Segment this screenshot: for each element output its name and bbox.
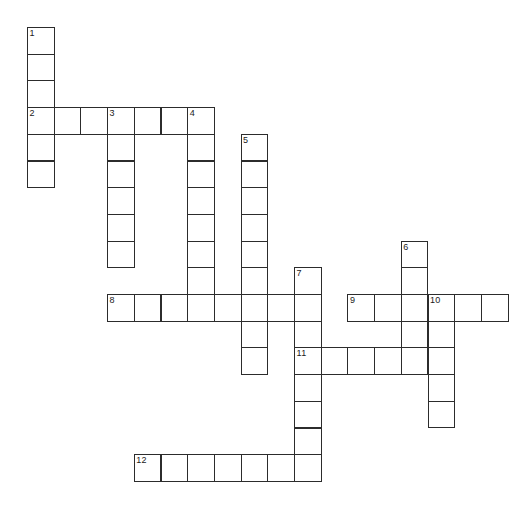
crossword-cell[interactable]: 7: [294, 267, 322, 295]
crossword-cell[interactable]: [187, 161, 215, 189]
crossword-cell[interactable]: [107, 161, 135, 189]
cell-number-11: 11: [297, 348, 307, 358]
crossword-cell[interactable]: [241, 241, 269, 269]
crossword-cell[interactable]: [241, 187, 269, 215]
crossword-cell[interactable]: [374, 294, 402, 322]
crossword-cell[interactable]: 3: [107, 107, 135, 135]
cell-number-4: 4: [190, 108, 195, 118]
footer-note: [258, 492, 516, 504]
crossword-cell[interactable]: [214, 294, 242, 322]
crossword-cell[interactable]: [454, 294, 482, 322]
crossword-cell[interactable]: [428, 401, 456, 429]
crossword-cell[interactable]: [294, 294, 322, 322]
cell-number-10: 10: [430, 295, 441, 305]
crossword-puzzle: 123456711891012: [0, 0, 520, 523]
crossword-cell[interactable]: 4: [187, 107, 215, 135]
crossword-cell[interactable]: 8: [107, 294, 135, 322]
crossword-cell[interactable]: [241, 294, 269, 322]
crossword-cell[interactable]: [294, 428, 322, 456]
crossword-cell[interactable]: [428, 347, 456, 375]
crossword-cell[interactable]: [27, 80, 55, 108]
cell-number-3: 3: [110, 108, 115, 118]
crossword-cell[interactable]: [241, 347, 269, 375]
crossword-cell[interactable]: [294, 401, 322, 429]
crossword-cell[interactable]: 9: [347, 294, 375, 322]
crossword-cell[interactable]: 2: [27, 107, 55, 135]
cell-number-9: 9: [350, 295, 355, 305]
crossword-cell[interactable]: 1: [27, 27, 55, 55]
cell-number-12: 12: [136, 455, 147, 465]
crossword-cell[interactable]: [481, 294, 509, 322]
crossword-cell[interactable]: [267, 294, 295, 322]
crossword-cell[interactable]: [321, 347, 349, 375]
crossword-cell[interactable]: [294, 321, 322, 349]
crossword-cell[interactable]: 11: [294, 347, 322, 375]
crossword-cell[interactable]: [107, 187, 135, 215]
crossword-cell[interactable]: [267, 454, 295, 482]
crossword-cell[interactable]: [187, 214, 215, 242]
crossword-cell[interactable]: [294, 454, 322, 482]
crossword-cell[interactable]: [187, 267, 215, 295]
crossword-cell[interactable]: [27, 54, 55, 82]
crossword-cell[interactable]: [401, 294, 429, 322]
crossword-cell[interactable]: [374, 347, 402, 375]
crossword-cell[interactable]: 6: [401, 241, 429, 269]
cell-number-7: 7: [297, 268, 302, 278]
crossword-cell[interactable]: [241, 454, 269, 482]
crossword-cell[interactable]: 10: [428, 294, 456, 322]
cell-number-2: 2: [30, 108, 35, 118]
crossword-cell[interactable]: [107, 134, 135, 162]
crossword-cell[interactable]: [428, 374, 456, 402]
crossword-cell[interactable]: [401, 321, 429, 349]
crossword-cell[interactable]: [187, 454, 215, 482]
crossword-cell[interactable]: [134, 107, 162, 135]
cell-number-6: 6: [403, 242, 408, 252]
crossword-grid[interactable]: 123456711891012: [0, 0, 520, 523]
crossword-cell[interactable]: [187, 241, 215, 269]
crossword-cell[interactable]: [161, 107, 189, 135]
crossword-cell[interactable]: [27, 134, 55, 162]
crossword-cell[interactable]: [241, 161, 269, 189]
crossword-cell[interactable]: [161, 294, 189, 322]
crossword-cell[interactable]: [27, 161, 55, 189]
crossword-cell[interactable]: [241, 214, 269, 242]
crossword-cell[interactable]: [214, 454, 242, 482]
crossword-cell[interactable]: 12: [134, 454, 162, 482]
crossword-cell[interactable]: [241, 321, 269, 349]
crossword-cell[interactable]: [187, 187, 215, 215]
crossword-cell[interactable]: [54, 107, 82, 135]
cell-number-5: 5: [243, 135, 248, 145]
crossword-cell[interactable]: [134, 294, 162, 322]
crossword-cell[interactable]: [187, 294, 215, 322]
cell-number-8: 8: [110, 295, 115, 305]
crossword-cell[interactable]: 5: [241, 134, 269, 162]
crossword-cell[interactable]: [80, 107, 108, 135]
crossword-cell[interactable]: [161, 454, 189, 482]
crossword-cell[interactable]: [107, 214, 135, 242]
crossword-cell[interactable]: [347, 347, 375, 375]
crossword-cell[interactable]: [107, 241, 135, 269]
crossword-cell[interactable]: [241, 267, 269, 295]
crossword-cell[interactable]: [187, 134, 215, 162]
crossword-cell[interactable]: [401, 347, 429, 375]
cell-number-1: 1: [30, 28, 35, 38]
crossword-cell[interactable]: [428, 321, 456, 349]
crossword-cell[interactable]: [294, 374, 322, 402]
crossword-cell[interactable]: [401, 267, 429, 295]
